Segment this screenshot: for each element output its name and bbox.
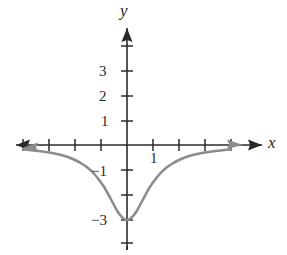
y-tick-label-3: 3: [99, 64, 107, 79]
y-tick-label-2: 2: [99, 89, 107, 104]
y-tick-label-1: 1: [101, 114, 109, 129]
x-axis-label: x: [268, 134, 276, 151]
x-tick-label-1: 1: [150, 151, 158, 166]
plot-background: [0, 0, 287, 255]
y-tick-label-negative-3: −3: [91, 213, 107, 228]
function-graph: [0, 0, 287, 255]
y-axis-label: y: [120, 2, 128, 19]
y-tick-label-negative-1: −1: [91, 164, 107, 179]
